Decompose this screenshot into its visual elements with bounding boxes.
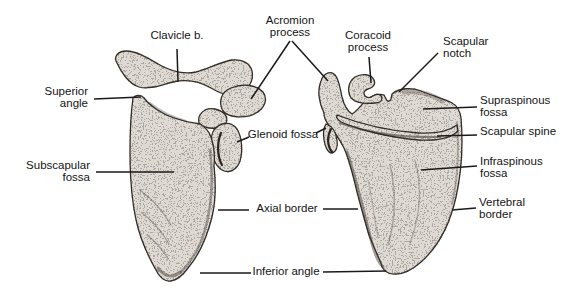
- left-glenoid: [211, 123, 242, 171]
- figure-canvas: Clavicle b. Acromion process Coracoid pr…: [0, 0, 577, 307]
- label-superior-angle-line1: Superior: [45, 85, 88, 97]
- label-glenoid-fossa: Glenoid fossa: [248, 128, 318, 140]
- label-coracoid-process: Coracoid process: [345, 29, 391, 53]
- label-vertebral-border: Vertebral border: [479, 196, 525, 220]
- label-coracoid-process-line2: process: [345, 41, 391, 53]
- leader-inferior-angle-right: [323, 271, 386, 272]
- label-supraspinous-fossa-line1: Supraspinous: [480, 94, 550, 106]
- label-acromion-process-line1: Acromion: [266, 14, 315, 26]
- label-superior-angle: Superior angle: [45, 85, 88, 109]
- label-scapular-notch-line1: Scapular: [443, 35, 488, 47]
- left-acromion: [221, 85, 266, 117]
- label-scapular-notch: Scapular notch: [443, 35, 488, 59]
- label-infraspinous-fossa-line1: Infraspinous: [480, 155, 543, 167]
- label-subscapular-fossa-line1: Subscapular: [26, 159, 90, 171]
- bone-shapes: [116, 51, 462, 281]
- label-scapular-spine: Scapular spine: [480, 125, 556, 137]
- leader-scapular-notch: [399, 53, 438, 92]
- label-vertebral-border-line1: Vertebral: [479, 196, 525, 208]
- scapula-illustration: [0, 0, 577, 307]
- label-supraspinous-fossa-line2: fossa: [480, 106, 550, 118]
- label-superior-angle-line2: angle: [45, 97, 88, 109]
- label-subscapular-fossa-line2: fossa: [26, 171, 90, 183]
- label-subscapular-fossa: Subscapular fossa: [26, 159, 90, 183]
- label-coracoid-process-line1: Coracoid: [345, 29, 391, 41]
- label-vertebral-border-line2: border: [479, 208, 525, 220]
- leader-acromion-left: [251, 41, 290, 99]
- leader-vertebral-border: [452, 208, 476, 210]
- label-infraspinous-fossa-line2: fossa: [480, 167, 543, 179]
- label-acromion-process-line2: process: [266, 26, 315, 38]
- leader-acromion-right: [292, 41, 328, 81]
- label-clavicle: Clavicle b.: [150, 29, 203, 41]
- label-scapular-notch-line2: notch: [443, 47, 488, 59]
- label-acromion-process: Acromion process: [266, 14, 315, 38]
- leader-scapular-spine: [437, 135, 477, 136]
- label-supraspinous-fossa: Supraspinous fossa: [480, 94, 550, 118]
- label-inferior-angle: Inferior angle: [252, 265, 319, 277]
- right-coracoid: [349, 75, 382, 104]
- label-infraspinous-fossa: Infraspinous fossa: [480, 155, 543, 179]
- leader-clavicle: [177, 49, 178, 82]
- label-axial-border: Axial border: [256, 202, 317, 214]
